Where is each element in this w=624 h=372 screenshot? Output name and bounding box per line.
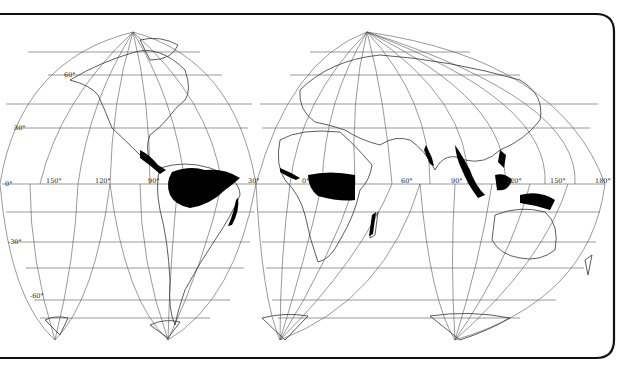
svg-text:120°: 120° [506, 177, 522, 185]
svg-text:90°: 90° [148, 177, 160, 185]
world-map: 60° 30° 0° -30° -60° 150° 120° 90° 30° 0… [0, 0, 624, 372]
map-border [0, 14, 614, 358]
north-america [70, 50, 189, 160]
rainforest-congo [308, 173, 355, 201]
latitude-labels: 60° 30° 0° -30° -60° [5, 71, 76, 300]
eurasia [300, 55, 541, 170]
rainforest-amazon [168, 168, 240, 208]
rainforest-southeast-asia [455, 145, 485, 198]
rainforest-west-africa [280, 168, 300, 180]
svg-text:30°: 30° [14, 124, 26, 132]
svg-text:0°: 0° [302, 177, 309, 185]
svg-text:90°: 90° [451, 177, 463, 185]
svg-text:-60°: -60° [30, 292, 44, 300]
svg-text:60°: 60° [401, 177, 413, 185]
rainforest-central-america [140, 150, 166, 174]
rainforest-regions [140, 145, 555, 236]
svg-text:150°: 150° [550, 177, 566, 185]
svg-text:0°: 0° [5, 180, 12, 188]
rainforest-new-guinea [520, 193, 555, 210]
svg-text:-30°: -30° [8, 238, 22, 246]
australia [492, 209, 556, 259]
svg-text:30°: 30° [248, 177, 260, 185]
svg-text:120°: 120° [95, 177, 111, 185]
rainforest-philippines [498, 150, 506, 168]
svg-text:60°: 60° [64, 71, 76, 79]
svg-text:180°: 180° [595, 177, 611, 185]
svg-text:150°: 150° [46, 177, 62, 185]
